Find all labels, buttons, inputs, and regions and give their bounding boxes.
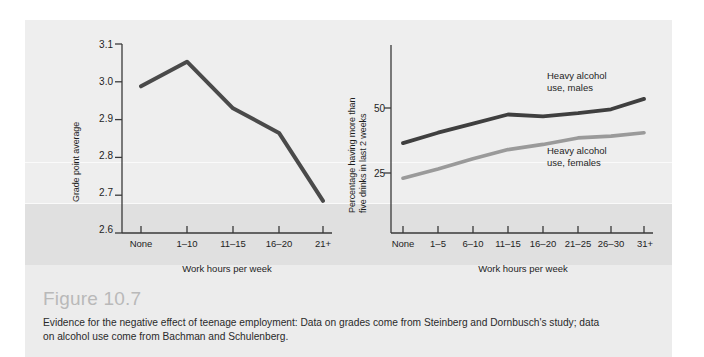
x-tick-label-gpa-21plus: 21+ <box>303 238 343 249</box>
x-tick-label-alcohol-1-5: 1–5 <box>418 238 458 249</box>
x-tick-label-gpa-1-10: 1–10 <box>167 238 207 249</box>
figure-caption-text: Evidence for the negative effect of teen… <box>43 316 613 343</box>
alcohol-plot-area <box>345 20 665 260</box>
x-tick-label-gpa-11-15: 11–15 <box>213 238 253 249</box>
x-tick-label-gpa-none: None <box>121 238 161 249</box>
series-label-females-line2: use, females <box>547 157 601 169</box>
figure-caption-block: Figure 10.7 Evidence for the negative ef… <box>43 288 655 343</box>
x-axis-title-gpa: Work hours per week <box>147 263 307 274</box>
figure-number: Figure 10.7 <box>43 288 655 310</box>
chart-grade-point-average: Grade point average 3.1 3.0 2.9 2.8 2.7 … <box>65 20 355 280</box>
series-label-males-line1: Heavy alcohol <box>547 70 607 82</box>
chart-heavy-alcohol-use: Percentage having more than five drinks … <box>345 20 665 280</box>
x-tick-label-alcohol-16-20: 16–20 <box>523 238 563 249</box>
x-tick-label-alcohol-6-10: 6–10 <box>453 238 493 249</box>
x-tick-label-gpa-16-20: 16–20 <box>259 238 299 249</box>
gpa-plot-area <box>65 20 355 260</box>
alcohol-females-line <box>403 133 644 179</box>
x-tick-label-alcohol-31plus: 31+ <box>625 238 665 249</box>
x-tick-label-alcohol-11-15: 11–15 <box>488 238 528 249</box>
x-axis-title-alcohol: Work hours per week <box>443 263 603 274</box>
x-tick-label-alcohol-none: None <box>383 238 423 249</box>
series-label-males-line2: use, males <box>547 82 593 94</box>
gpa-data-line <box>141 62 323 201</box>
figure-panel: Grade point average 3.1 3.0 2.9 2.8 2.7 … <box>25 20 672 357</box>
series-label-females-line1: Heavy alcohol <box>547 145 607 157</box>
